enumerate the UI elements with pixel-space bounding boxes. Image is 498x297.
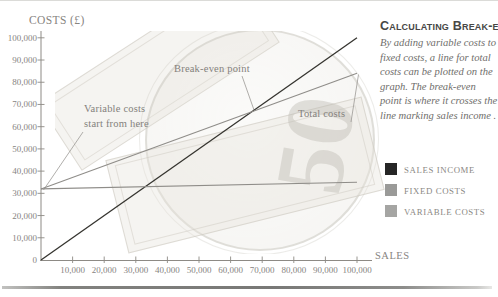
variable-costs-swatch — [385, 205, 397, 217]
x-tick-label: 20,000 — [92, 265, 117, 275]
x-tick-label: 40,000 — [155, 265, 180, 275]
y-tick-label: 90,000 — [12, 55, 37, 65]
y-tick-label: 40,000 — [12, 166, 37, 176]
legend-item-fixed-costs: FIXED COSTS — [385, 184, 485, 196]
bottom-rule — [2, 286, 492, 289]
legend-item-variable-costs: VARIABLE COSTS — [385, 205, 485, 217]
sales-income-swatch — [385, 163, 397, 175]
x-tick-label: 100,000 — [342, 265, 372, 275]
leader-line-total-costs — [351, 75, 359, 123]
variable-costs-note-line2: start from here — [84, 116, 149, 131]
x-tick-label: 60,000 — [218, 265, 243, 275]
legend-label: VARIABLE COSTS — [404, 205, 485, 217]
y-tick-label: 30,000 — [12, 188, 37, 198]
x-tick-label: 10,000 — [60, 265, 85, 275]
x-tick-label: 30,000 — [123, 265, 148, 275]
y-tick-label: 70,000 — [12, 99, 37, 109]
fixed-costs-swatch — [385, 184, 397, 196]
caption-line: costs can be plotted on the — [380, 65, 496, 80]
x-tick-label: 80,000 — [281, 265, 306, 275]
legend-label: SALES INCOME — [404, 163, 475, 175]
series-total-costs-fixed-variable- — [41, 73, 357, 189]
y-tick-label: 60,000 — [12, 122, 37, 132]
y-tick-label: 50,000 — [12, 144, 37, 154]
caption-line: line marking sales income . — [380, 109, 496, 124]
leader-line-break-even — [242, 76, 254, 110]
legend-label: FIXED COSTS — [404, 184, 466, 196]
legend-item-sales-income: SALES INCOME — [385, 163, 485, 175]
break-even-point-label: Break-even point — [174, 61, 250, 76]
x-axis-title: SALES — [375, 250, 410, 261]
caption-line: fixed costs, a line for total — [380, 51, 496, 66]
y-tick-label: 10,000 — [12, 233, 37, 243]
y-tick-label: 0 — [33, 255, 38, 265]
variable-costs-note-line1: Variable costs — [84, 101, 149, 116]
caption-line: By adding variable costs to — [380, 36, 496, 51]
y-tick-label: 20,000 — [12, 211, 37, 221]
x-tick-label: 70,000 — [250, 265, 275, 275]
caption-panel: Calculating Break-even By adding variabl… — [380, 19, 496, 124]
x-tick-label: 50,000 — [187, 265, 212, 275]
total-costs-label: Total costs — [298, 106, 345, 121]
break-even-figure: 50 10,00020,00030,00040,00050,00060,0007… — [0, 0, 498, 297]
caption-text: By adding variable costs to fixed costs,… — [380, 36, 496, 124]
variable-costs-note: Variable costs start from here — [84, 101, 149, 131]
page-title: Calculating Break-even — [380, 19, 496, 33]
series-fixed-costs — [41, 182, 357, 189]
x-tick-label: 90,000 — [313, 265, 338, 275]
caption-line: point is where it crosses the — [380, 94, 496, 109]
y-tick-label: 80,000 — [12, 77, 37, 87]
legend: SALES INCOME FIXED COSTS VARIABLE COSTS — [385, 163, 485, 226]
caption-line: graph. The break-even — [380, 80, 496, 95]
y-axis-title: COSTS (£) — [29, 14, 85, 26]
y-tick-label: 100,000 — [8, 33, 38, 43]
